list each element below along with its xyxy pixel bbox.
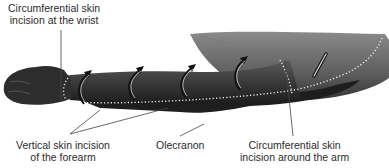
label-arm-incision: Circumferential skin incision around the… [240,139,349,163]
label-olecranon: Olecranon [156,139,204,151]
hand [4,66,72,105]
label-forearm-incision: Vertical skin incision of the forearm [16,139,110,163]
label-wrist-incision: Circumferential skin incision at the wri… [8,2,100,26]
anatomical-figure: Circumferential skin incision at the wri… [0,0,389,168]
